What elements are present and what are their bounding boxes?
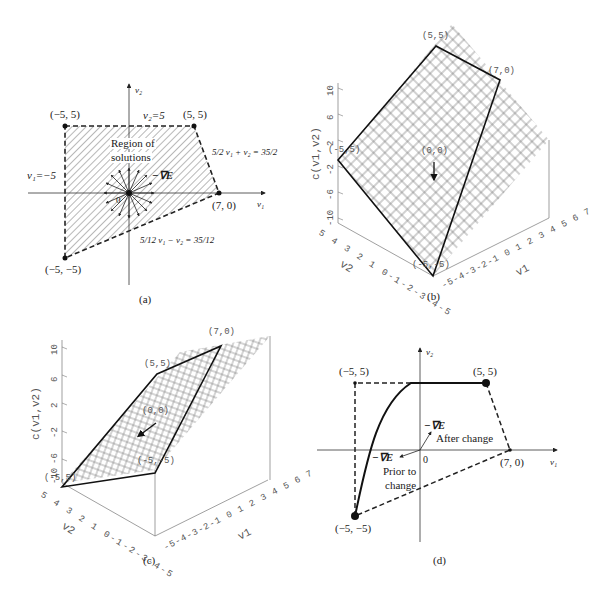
panel-c: (7,0) (5,5) (0,0) (-5,-5) (-5,5) c(v1,v2… bbox=[0, 300, 295, 594]
vertex-label: (−5, 5) bbox=[50, 109, 80, 120]
point-label: (-5,-5) bbox=[412, 261, 450, 270]
point-label: (7,0) bbox=[208, 328, 235, 337]
vertex-label: (7, 0) bbox=[500, 457, 524, 468]
panel-b: (5,5) (7,0) (-5,5) (0,0) (-5,-5) c(v1,v2… bbox=[300, 0, 589, 300]
gradient-after-label: −∇E bbox=[424, 420, 445, 431]
vertex-label: (5, 5) bbox=[473, 366, 497, 377]
change-label: change bbox=[385, 480, 416, 491]
after-change-label: After change bbox=[436, 433, 493, 444]
region-label: solutions bbox=[110, 152, 152, 163]
caption-d: (d) bbox=[433, 554, 446, 566]
caption-c: (c) bbox=[143, 554, 155, 566]
point-label: (5,5) bbox=[144, 360, 171, 369]
origin-label: 0 bbox=[116, 196, 121, 205]
constraint-top: v₂=5 bbox=[143, 110, 165, 121]
panel-d-plot bbox=[295, 320, 589, 594]
constraint-right: 5/2 v₁ + v₂ = 35/2 bbox=[212, 148, 277, 157]
region-label: Region of bbox=[110, 138, 156, 149]
constraint-left: v₁=−5 bbox=[27, 170, 56, 181]
point-label: (-5,5) bbox=[44, 474, 76, 483]
constraint-bottom: 5/12 v₁ − v₂ = 35/12 bbox=[140, 236, 214, 245]
point-label: (0,0) bbox=[142, 407, 169, 416]
point-label: (7,0) bbox=[488, 67, 515, 76]
prior-to-label: Prior to bbox=[383, 466, 416, 477]
axis-v2-label: v₂ bbox=[426, 348, 433, 357]
vertex-label: (5, 5) bbox=[183, 109, 207, 120]
panel-d: v₂ v₁ 0 (−5, 5) (5, 5) (7, 0) (−5, −5) −… bbox=[295, 320, 589, 594]
vertex-label: (−5, 5) bbox=[339, 366, 369, 377]
gradient-prior-label: −∇E bbox=[372, 452, 393, 463]
vertex-label: (7, 0) bbox=[212, 200, 236, 211]
axis-v1-label: v₁ bbox=[257, 200, 264, 209]
origin-label: 0 bbox=[423, 455, 428, 465]
axis-v2-label: v₂ bbox=[135, 86, 142, 95]
panel-a: v₂ v₁ 0 (−5, 5) (5, 5) (7, 0) (−5, −5) v… bbox=[0, 0, 295, 300]
z-axis-label: c(v1,v2) bbox=[310, 127, 322, 180]
point-label: (0,0) bbox=[421, 147, 448, 156]
vertex-label: (−5, −5) bbox=[45, 264, 81, 275]
point-label: (-5,5) bbox=[328, 146, 360, 155]
gradient-label: −∇E bbox=[152, 170, 173, 181]
point-label: (5,5) bbox=[422, 32, 449, 41]
panel-c-3d-plot bbox=[0, 300, 295, 594]
axis-v1-label: v₁ bbox=[550, 458, 557, 467]
caption-b: (b) bbox=[427, 290, 440, 302]
z-axis-label: c(v1,v2) bbox=[30, 387, 42, 440]
vertex-label: (−5, −5) bbox=[335, 523, 371, 534]
point-label: (-5,-5) bbox=[137, 457, 175, 466]
